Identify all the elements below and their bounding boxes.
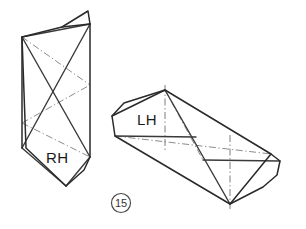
- right-solid-lh: LH: [112, 85, 280, 209]
- figure-number-badge: 15: [112, 194, 131, 213]
- left-solid-rh: RH: [22, 11, 90, 186]
- lh-horizontal-right: [203, 160, 280, 161]
- figure-number-text: 15: [115, 197, 127, 209]
- technical-drawing-figure: RH LH 15: [0, 0, 306, 229]
- lh-horizontal-left: [115, 136, 196, 137]
- rh-hand-label: RH: [46, 149, 68, 166]
- lh-hand-label: LH: [137, 111, 157, 128]
- figure-canvas: RH LH 15: [0, 0, 306, 229]
